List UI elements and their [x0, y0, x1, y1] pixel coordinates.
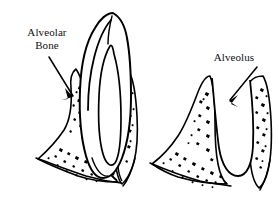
- label-alveolus: Alveolus: [204, 51, 264, 64]
- label-alveolar-bone-line1: Alveolar: [14, 26, 80, 39]
- alveolar-bone-right-figure: [150, 76, 271, 190]
- diagram-canvas: Alveolar Bone Alveolus: [0, 0, 279, 198]
- label-alveolar-bone: Alveolar Bone: [14, 26, 80, 51]
- label-alveolar-bone-line2: Bone: [14, 39, 80, 52]
